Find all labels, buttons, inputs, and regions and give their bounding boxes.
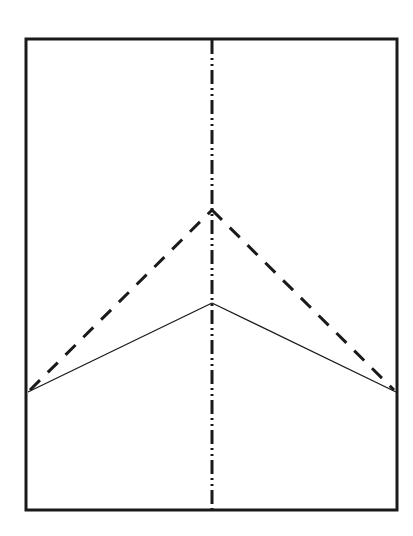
crease-right	[212, 303, 396, 392]
valley-fold-right	[212, 210, 394, 390]
crease-left	[28, 303, 212, 392]
valley-fold-left	[30, 210, 212, 390]
fold-diagram	[0, 0, 413, 536]
